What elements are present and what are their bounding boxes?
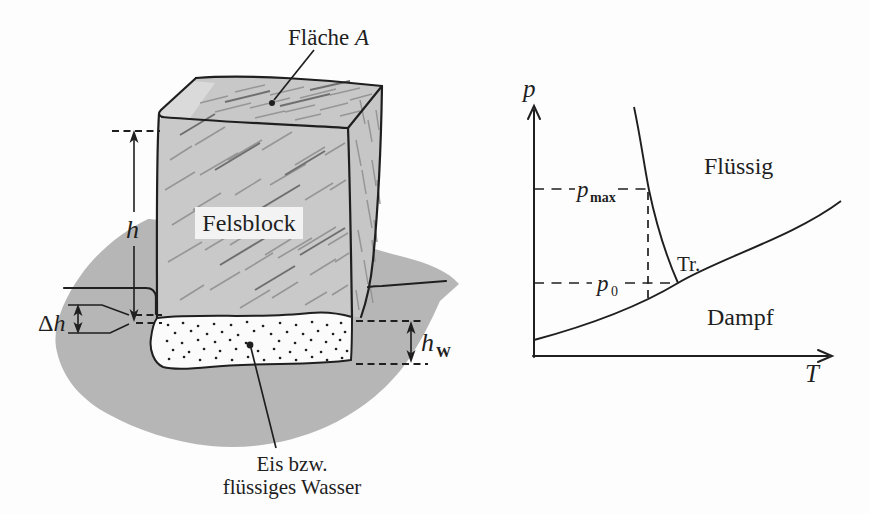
phase-diagram: p T p max p 0 Flüssig Dampf Tr.: [521, 75, 841, 387]
water-height-subscript: W: [436, 344, 451, 360]
temperature-axis-label: T: [805, 360, 821, 387]
ice-label-line1: Eis bzw.: [257, 452, 328, 476]
pmax-subscript: max: [590, 190, 616, 205]
water-height-label: h: [421, 328, 434, 357]
height-label: h: [126, 215, 139, 244]
triple-point-label: Tr.: [677, 252, 700, 276]
pmax-guide: p max: [534, 177, 646, 205]
ice-layer: [151, 312, 352, 368]
figure-canvas: h Δh h W Fläche A: [0, 0, 870, 514]
pressure-axis-label: p: [521, 75, 536, 102]
surface-anchor-dot: [269, 100, 275, 106]
block-label: Felsblock: [202, 210, 295, 236]
p0-label: p: [595, 271, 609, 296]
surface-label: Fläche A: [288, 25, 370, 50]
p0-guide: p 0: [534, 271, 675, 299]
p0-subscript: 0: [611, 284, 618, 299]
ice-label-line2: flüssiges Wasser: [223, 475, 362, 499]
liquid-region-label: Flüssig: [704, 153, 773, 179]
textbook-figure: h Δh h W Fläche A: [0, 0, 870, 514]
delta-height-label: Δh: [38, 310, 65, 336]
pmax-label: p: [575, 177, 589, 202]
axes: [528, 106, 832, 362]
vapor-region-label: Dampf: [707, 304, 774, 330]
melting-curve: [634, 107, 678, 283]
ice-anchor-dot: [247, 342, 254, 349]
rock-block-diagram: h Δh h W Fläche A: [38, 25, 459, 499]
